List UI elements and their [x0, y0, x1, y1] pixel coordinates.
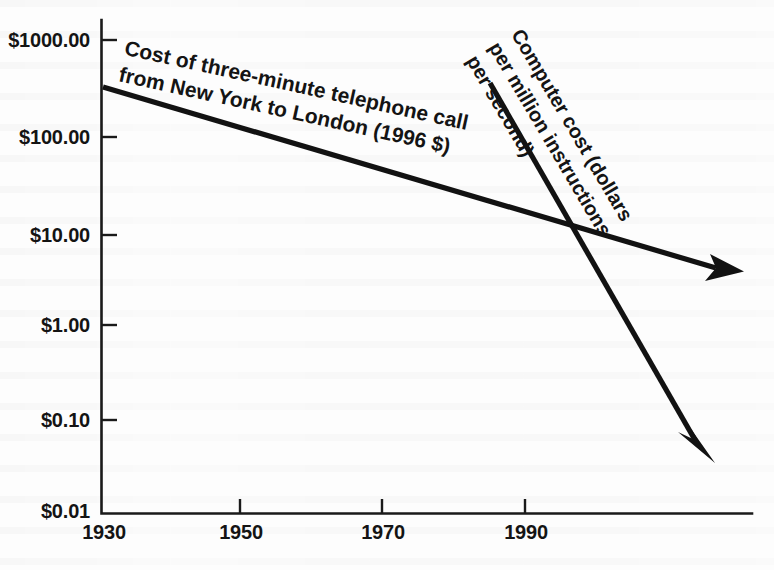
y-tick-label-1000: $1000.00 — [0, 29, 90, 52]
y-axis-ticks — [102, 40, 118, 420]
y-tick-label-0-10: $0.10 — [0, 409, 90, 432]
y-tick-label-1: $1.00 — [0, 314, 90, 337]
y-tick-label-0-01: $0.01 — [0, 500, 90, 523]
y-tick-label-10: $10.00 — [0, 224, 90, 247]
x-tick-label-1950: 1950 — [219, 521, 263, 544]
y-tick-label-100: $100.00 — [0, 126, 90, 149]
x-axis-ticks — [240, 499, 525, 514]
x-tick-label-1990: 1990 — [504, 521, 548, 544]
x-tick-label-1970: 1970 — [361, 521, 405, 544]
x-tick-label-1930: 1930 — [82, 521, 126, 544]
chart-figure: $1000.00 $100.00 $10.00 $1.00 $0.10 $0.0… — [0, 0, 774, 570]
